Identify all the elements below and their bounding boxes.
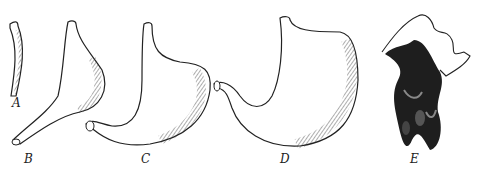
label-c: C: [141, 152, 150, 166]
stomach-a: [10, 22, 22, 96]
stomach-d: [214, 17, 358, 146]
label-d: D: [280, 152, 290, 166]
label-e: E: [410, 152, 419, 166]
label-a: A: [12, 96, 21, 110]
stomach-illustrations: [0, 0, 481, 180]
stomach-e: [382, 15, 470, 150]
label-b: B: [24, 152, 33, 166]
